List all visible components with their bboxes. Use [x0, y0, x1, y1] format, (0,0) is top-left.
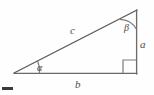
angle-beta-label: β	[124, 23, 129, 33]
right-triangle-figure: c b a α β	[0, 0, 154, 95]
vertical-leg-label: a	[140, 39, 146, 50]
hypotenuse-label: c	[70, 25, 75, 36]
corner-bar-mark	[2, 87, 13, 90]
right-angle-marker	[123, 60, 137, 73]
base-label: b	[75, 79, 81, 90]
angle-alpha-label: α	[37, 63, 42, 73]
hypotenuse-line	[14, 10, 137, 73]
